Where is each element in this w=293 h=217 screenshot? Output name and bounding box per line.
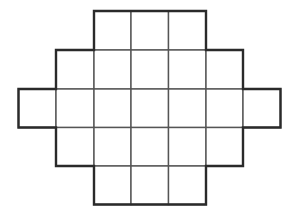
grid-cell <box>206 89 243 128</box>
grid-cell <box>56 128 94 167</box>
grid-cell <box>243 89 281 128</box>
grid-cell <box>94 166 131 205</box>
grid-cell <box>131 89 169 128</box>
grid-cell <box>56 50 94 89</box>
grid-cell <box>94 128 131 167</box>
grid-cell <box>169 50 207 89</box>
grid-cell <box>169 128 207 167</box>
grid-cell <box>131 128 169 167</box>
grid-cell <box>94 89 131 128</box>
grid-cell <box>131 166 169 205</box>
grid-cell <box>94 11 131 50</box>
grid-cells <box>19 11 281 205</box>
grid-cell <box>131 50 169 89</box>
grid-cell <box>19 89 57 128</box>
grid-cell <box>169 166 207 205</box>
grid-cell <box>131 11 169 50</box>
grid-cell <box>56 89 94 128</box>
grid-cell <box>206 50 243 89</box>
grid-cell <box>169 11 207 50</box>
grid-cell <box>206 128 243 167</box>
grid-cell <box>94 50 131 89</box>
grid-shape-diagram <box>0 0 293 217</box>
grid-cell <box>169 89 207 128</box>
